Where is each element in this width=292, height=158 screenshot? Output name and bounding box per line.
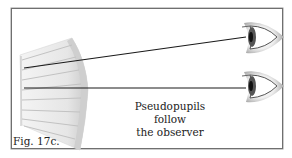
- eye-icon-lower: [242, 71, 284, 102]
- caption-line-2: the observer: [120, 126, 220, 139]
- caption-line-1: Pseudopupils follow: [120, 100, 220, 126]
- figure-label: Fig. 17c.: [13, 135, 60, 147]
- eye-icon-upper: [242, 22, 284, 53]
- figure-caption: Pseudopupils follow the observer: [120, 100, 220, 139]
- ommatidia-fan-icon: [20, 38, 88, 150]
